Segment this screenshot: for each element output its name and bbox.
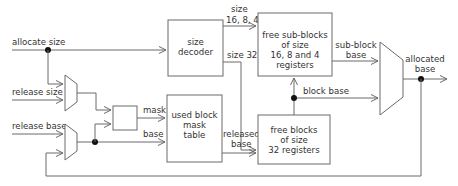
free-blocks-line-3: 32 registers [268,145,320,155]
register-allocator-block-diagram: allocate size release size release base … [0,0,458,186]
label-size-small-2: 16, 8, 4 [226,15,259,25]
label-released-base-1: released [223,129,260,139]
label-release-base: release base [12,121,67,131]
free-sub-blocks-line-3: 16, 8 and 4 [271,50,320,60]
wire-mux-size-to-mask [77,93,111,110]
free-sub-blocks-line-4: registers [276,60,314,70]
used-block-mask-table-line-2: mask [183,120,206,130]
label-size-32: size 32 [227,50,257,60]
junction-dot-block-base [291,95,297,101]
size-decoder-line-2: decoder [178,47,213,57]
free-sub-blocks-line-1: free sub-blocks [262,30,328,40]
wire-base-to-mask [95,124,111,142]
free-blocks-line-1: free blocks [271,125,318,135]
label-allocated-base-2: base [415,64,436,74]
used-block-mask-table-line-3: table [184,130,206,140]
free-blocks-line-2: of size [280,135,308,145]
mux-size [65,75,77,111]
label-allocate-size: allocate size [12,37,65,47]
label-sub-block-base-1: sub-block [335,40,376,50]
label-mask: mask [143,105,166,115]
free-sub-blocks-line-2: of size [281,40,309,50]
mux-output [380,42,403,115]
label-allocated-base-1: allocated [405,54,444,64]
mask-generator [113,106,137,130]
wire-feedback [46,79,421,176]
label-released-base-2: base [231,139,252,149]
wire-allocate-size-to-mux [48,50,63,84]
label-block-base: block base [303,86,349,96]
size-decoder-line-1: size [187,37,204,47]
used-block-mask-table-line-1: used block [171,110,217,120]
label-release-size: release size [12,87,63,97]
mux-base [65,124,77,160]
label-size-small-1: size [231,4,248,14]
label-sub-block-base-2: base [346,50,367,60]
label-base: base [143,129,164,139]
